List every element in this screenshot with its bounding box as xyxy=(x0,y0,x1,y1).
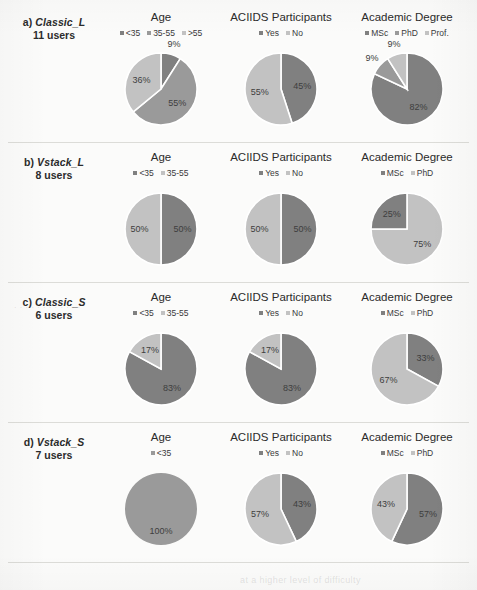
legend-item-label: MSc xyxy=(387,448,404,458)
legend-swatch-icon xyxy=(286,31,290,35)
legend-item[interactable]: MSc xyxy=(381,448,404,458)
pie-slice xyxy=(161,193,197,265)
pie-svg xyxy=(370,52,444,126)
pie-chart: 75%25% xyxy=(370,192,444,266)
row-separator xyxy=(8,422,469,423)
legend-item-label: 35-55 xyxy=(153,28,175,38)
legend-item-label: MSc xyxy=(371,28,388,38)
pie-svg xyxy=(124,52,198,126)
pie-chart: 57%43% xyxy=(370,472,444,546)
legend-item[interactable]: MSc xyxy=(365,28,388,38)
legend-item[interactable]: No xyxy=(286,168,303,178)
chart-column: ACIIDS ParticipantsYesNo45%55% xyxy=(218,10,344,126)
legend-swatch-icon xyxy=(259,31,263,35)
chart-legend: YesNo xyxy=(218,28,344,38)
legend-item[interactable]: Yes xyxy=(259,448,279,458)
chart-column: ACIIDS ParticipantsYesNo43%57% xyxy=(218,430,344,546)
legend-item-label: PhD xyxy=(417,168,434,178)
legend-swatch-icon xyxy=(286,311,290,315)
chart-title: Academic Degree xyxy=(344,290,470,304)
row-user-count: 6 users xyxy=(6,309,102,322)
pie-svg xyxy=(244,52,318,126)
row-letter: c) xyxy=(22,296,32,308)
pie-chart: 83%17% xyxy=(124,332,198,406)
pie-svg xyxy=(124,332,198,406)
legend-item[interactable]: >55 xyxy=(182,28,202,38)
legend-swatch-icon xyxy=(286,451,290,455)
legend-swatch-icon xyxy=(411,451,415,455)
legend-swatch-icon xyxy=(147,31,151,35)
row-separator xyxy=(8,562,469,563)
pie-svg xyxy=(244,192,318,266)
legend-item-label: PhD xyxy=(417,448,434,458)
pie-chart: 83%17% xyxy=(244,332,318,406)
legend-item[interactable]: Yes xyxy=(259,308,279,318)
row-label-block: d) Vstack_S7 users xyxy=(6,436,102,462)
row-identifier: b) Vstack_L xyxy=(6,156,102,169)
legend-item[interactable]: PhD xyxy=(395,28,418,38)
row-label-block: c) Classic_S6 users xyxy=(6,296,102,322)
pie-svg xyxy=(370,472,444,546)
row-config-name: Classic_S xyxy=(35,296,86,308)
row-letter: b) xyxy=(24,156,34,168)
legend-item[interactable]: No xyxy=(286,308,303,318)
legend-swatch-icon xyxy=(381,311,385,315)
pie-svg xyxy=(124,472,198,546)
legend-item[interactable]: 35-55 xyxy=(147,28,175,38)
row-config-name: Vstack_L xyxy=(37,156,84,168)
legend-item[interactable]: Yes xyxy=(259,168,279,178)
legend-item-label: 35-55 xyxy=(167,168,189,178)
figure-row: d) Vstack_S7 usersAge<35100%ACIIDS Parti… xyxy=(0,428,477,568)
figure-row: b) Vstack_L8 usersAge<3535-5550%50%ACIID… xyxy=(0,148,477,288)
legend-item[interactable]: 35-55 xyxy=(161,308,189,318)
legend-item[interactable]: <35 xyxy=(120,28,140,38)
row-separator xyxy=(8,282,469,283)
legend-item[interactable]: 35-55 xyxy=(161,168,189,178)
chart-legend: MScPhD xyxy=(344,448,470,458)
row-identifier: d) Vstack_S xyxy=(6,436,102,449)
legend-item-label: >55 xyxy=(188,28,202,38)
chart-legend: <35 xyxy=(98,448,224,458)
legend-swatch-icon xyxy=(259,451,263,455)
pie-chart: 33%67% xyxy=(370,332,444,406)
legend-item[interactable]: <35 xyxy=(151,448,171,458)
legend-item[interactable]: <35 xyxy=(133,168,153,178)
legend-item-label: Prof. xyxy=(431,28,449,38)
figure-row: a) Classic_L11 usersAge<3535-55>559%55%3… xyxy=(0,8,477,148)
legend-item-label: Yes xyxy=(265,308,279,318)
legend-item[interactable]: MSc xyxy=(381,168,404,178)
legend-swatch-icon xyxy=(133,311,137,315)
legend-item[interactable]: MSc xyxy=(381,308,404,318)
row-identifier: a) Classic_L xyxy=(6,16,102,29)
legend-item-label: MSc xyxy=(387,308,404,318)
row-separator xyxy=(8,142,469,143)
legend-item[interactable]: Yes xyxy=(259,28,279,38)
chart-column: Academic DegreeMScPhD75%25% xyxy=(344,150,470,266)
pie-chart-figure: . . . . . . . . . . . . at a higher leve… xyxy=(0,0,477,590)
chart-title: Academic Degree xyxy=(344,150,470,164)
pie-chart: 82%9%9% xyxy=(370,52,444,126)
legend-item[interactable]: PhD xyxy=(411,308,434,318)
legend-swatch-icon xyxy=(381,451,385,455)
legend-item-label: No xyxy=(292,308,303,318)
chart-legend: YesNo xyxy=(218,308,344,318)
pie-svg xyxy=(244,332,318,406)
chart-legend: MScPhD xyxy=(344,168,470,178)
legend-item[interactable]: PhD xyxy=(411,168,434,178)
row-user-count: 8 users xyxy=(6,169,102,182)
legend-item[interactable]: No xyxy=(286,28,303,38)
row-letter: a) xyxy=(23,16,33,28)
legend-swatch-icon xyxy=(259,171,263,175)
row-config-name: Classic_L xyxy=(35,16,85,28)
legend-item[interactable]: No xyxy=(286,448,303,458)
legend-item[interactable]: <35 xyxy=(133,308,153,318)
legend-swatch-icon xyxy=(411,311,415,315)
legend-swatch-icon xyxy=(381,171,385,175)
row-identifier: c) Classic_S xyxy=(6,296,102,309)
row-config-name: Vstack_S xyxy=(37,436,85,448)
pie-chart: 43%57% xyxy=(244,472,318,546)
chart-column: Age<3535-55>559%55%36% xyxy=(98,10,224,126)
legend-item[interactable]: PhD xyxy=(411,448,434,458)
legend-item[interactable]: Prof. xyxy=(425,28,449,38)
figure-row: c) Classic_S6 usersAge<3535-5583%17%ACII… xyxy=(0,288,477,428)
